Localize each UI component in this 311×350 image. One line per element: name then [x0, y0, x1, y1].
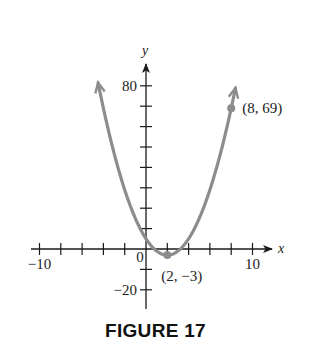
- point-marker: [227, 104, 235, 112]
- parabola-path: [98, 83, 235, 255]
- axes: [31, 64, 272, 309]
- point-label: (2, −3): [161, 268, 202, 285]
- point-label: (8, 69): [242, 100, 282, 117]
- x-tick-label: 0: [136, 249, 144, 265]
- y-axis-label: y: [140, 43, 149, 58]
- figure-caption: FIGURE 17: [0, 320, 311, 342]
- point-annotations: (8, 69)(2, −3): [161, 100, 282, 285]
- parabola-chart: xy−1001080−20 (8, 69)(2, −3): [0, 0, 311, 350]
- tick-labels: xy−1001080−20: [28, 43, 285, 298]
- y-tick-label: 80: [122, 78, 137, 94]
- x-axis-label: x: [277, 241, 285, 256]
- point-marker: [163, 251, 171, 259]
- parabola-curve: [95, 83, 238, 255]
- x-tick-label: 10: [245, 256, 260, 272]
- y-tick-label: −20: [114, 282, 137, 298]
- x-tick-label: −10: [28, 256, 51, 272]
